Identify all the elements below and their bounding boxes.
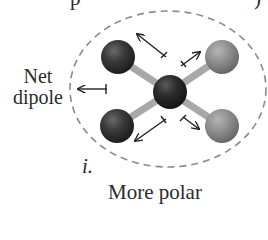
figure-caption: More polar [108,182,202,203]
net-dipole-label-line2: dipole [4,87,72,108]
net-dipole-label: Net dipole [4,66,72,108]
atom-top-right [205,40,239,74]
net-dipole-label-line1: Net [4,66,72,87]
dipole-arrow-bottom-right [183,117,199,129]
dipole-arrow-bottom-left [135,119,166,141]
atom-bottom-right [205,109,239,143]
panel-number: i. [82,156,93,177]
dipole-arrow-top-left [137,34,166,57]
atom-bottom-left [100,109,134,143]
atom-top-left [101,40,135,74]
atom-center [153,75,187,109]
